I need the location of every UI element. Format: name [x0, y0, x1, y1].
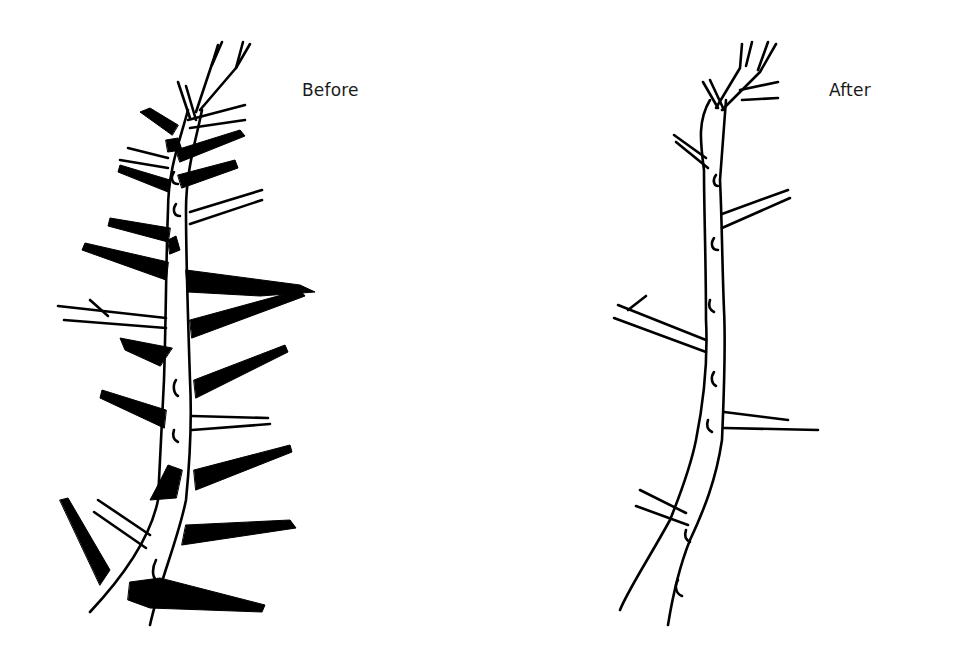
after-tree-illustration	[478, 0, 957, 660]
before-panel: Before	[0, 0, 478, 660]
before-label: Before	[302, 80, 359, 100]
before-tree-illustration	[0, 0, 478, 660]
after-panel: After	[478, 0, 957, 660]
after-label: After	[829, 80, 871, 100]
